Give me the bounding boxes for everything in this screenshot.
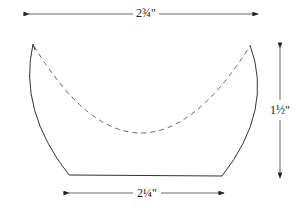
pattern-outline	[30, 44, 258, 176]
bottom-width-label: 2¼"	[133, 186, 161, 200]
height-label: 1½"	[270, 100, 290, 120]
pattern-diagram	[0, 0, 304, 208]
top-width-label: 2¾"	[133, 6, 159, 20]
fold-line-dashed	[34, 46, 250, 133]
